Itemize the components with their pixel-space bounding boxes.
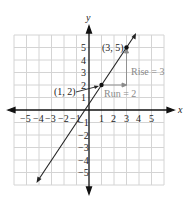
point-3-5 bbox=[124, 45, 128, 49]
pointer-arrow bbox=[76, 86, 99, 93]
point-label-1-2: (1, 2) bbox=[54, 87, 76, 97]
axes bbox=[8, 26, 174, 194]
rise-label: Rise = 3 bbox=[131, 67, 164, 77]
x-axis-label: x bbox=[178, 105, 182, 115]
point-1-2 bbox=[99, 83, 103, 87]
coordinate-plane bbox=[0, 0, 194, 211]
rise-run-triangle bbox=[102, 48, 129, 87]
y-axis-label: y bbox=[86, 13, 90, 23]
run-label: Run = 2 bbox=[104, 89, 136, 99]
point-label-3-5: (3, 5) bbox=[102, 43, 124, 53]
